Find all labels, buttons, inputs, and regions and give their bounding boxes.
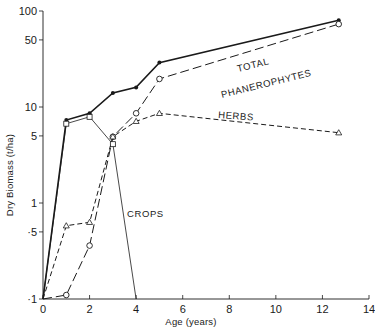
square-marker-icon — [64, 121, 69, 126]
circle-marker-icon — [157, 76, 163, 82]
series-line — [43, 113, 339, 299]
series-layer — [43, 18, 342, 299]
circle-marker-icon — [63, 292, 69, 298]
dot-marker-icon — [157, 61, 161, 65]
y-tick-label: ·5 — [27, 226, 37, 238]
chart-canvas: 02468101214·1·5151050100Age (years)Dry B… — [0, 0, 375, 334]
x-tick-label: 10 — [270, 303, 282, 315]
x-tick-label: 4 — [133, 303, 139, 315]
series-line — [43, 117, 136, 299]
series-label-phanerophytes: PHANEROPHYTES — [220, 67, 313, 100]
circle-marker-icon — [336, 21, 342, 27]
y-axis-title: Dry Biomass (t/ha) — [4, 134, 15, 216]
series-label-total: TOTAL — [236, 55, 270, 74]
series-line — [43, 24, 339, 299]
square-marker-icon — [110, 142, 115, 147]
x-tick-label: 12 — [316, 303, 328, 315]
series-total — [43, 18, 341, 299]
series-crops — [43, 114, 136, 299]
series-herbs — [43, 110, 342, 299]
x-axis-title: Age (years) — [165, 316, 216, 327]
x-tick-label: 8 — [226, 303, 232, 315]
labels-layer: TOTALPHANEROPHYTESHERBSCROPS — [127, 55, 313, 219]
circle-marker-icon — [133, 110, 139, 116]
x-tick-label: 14 — [363, 303, 375, 315]
dot-marker-icon — [111, 91, 115, 95]
triangle-marker-icon — [156, 110, 162, 115]
triangle-marker-icon — [63, 223, 69, 228]
y-tick-label: 50 — [25, 34, 37, 46]
x-tick-label: 2 — [87, 303, 93, 315]
y-tick-label: 1 — [31, 197, 37, 209]
x-tick-label: 0 — [40, 303, 46, 315]
x-tick-label: 6 — [180, 303, 186, 315]
series-label-crops: CROPS — [127, 208, 164, 219]
triangle-marker-icon — [87, 219, 93, 224]
square-marker-icon — [87, 114, 92, 119]
dot-marker-icon — [134, 85, 138, 89]
series-phanerophytes — [43, 21, 342, 299]
biomass-chart: 02468101214·1·5151050100Age (years)Dry B… — [0, 0, 375, 334]
y-tick-label: 10 — [25, 101, 37, 113]
y-tick-label: 5 — [31, 130, 37, 142]
y-tick-label: ·1 — [27, 293, 37, 305]
series-line — [43, 20, 339, 299]
y-tick-label: 100 — [19, 5, 37, 17]
circle-marker-icon — [87, 243, 93, 249]
